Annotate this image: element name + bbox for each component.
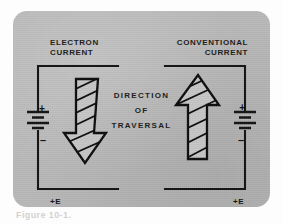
right-battery-negative-terminal: – bbox=[238, 135, 244, 146]
right-source-voltage-label: +E bbox=[233, 197, 244, 206]
electron-current-label: ELECTRON CURRENT bbox=[50, 38, 99, 58]
direction-of-traversal-text: DIRECTION OF TRAVERSAL bbox=[13, 88, 270, 133]
traversal-word: TRAVERSAL bbox=[13, 118, 270, 133]
figure-container: ELECTRON CURRENT CONVENTIONAL CURRENT DI… bbox=[0, 0, 283, 224]
left-battery-positive-terminal: + bbox=[39, 104, 45, 114]
left-source-voltage-label: +E bbox=[50, 197, 61, 206]
right-battery-positive-terminal: + bbox=[239, 103, 245, 113]
figure-caption: Figure 10-1. bbox=[16, 210, 71, 221]
of-word: OF bbox=[13, 103, 270, 118]
conventional-current-label: CONVENTIONAL CURRENT bbox=[177, 38, 248, 58]
direction-word: DIRECTION bbox=[13, 88, 270, 103]
diagram-panel: ELECTRON CURRENT CONVENTIONAL CURRENT DI… bbox=[13, 11, 270, 207]
left-battery-negative-terminal: – bbox=[40, 135, 46, 146]
